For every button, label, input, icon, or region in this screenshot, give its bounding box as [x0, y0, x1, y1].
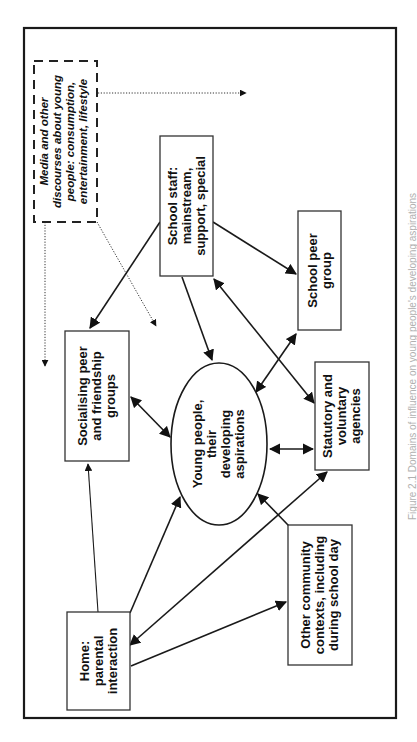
media-label-line-4: entertainment, lifestyle: [77, 78, 89, 204]
arrow-staff-to-young: [182, 277, 212, 360]
arrow-peer-young: [256, 334, 296, 392]
school-staff-label-line-3: support, special: [193, 156, 208, 256]
arrow-home-community: [131, 602, 286, 666]
node-young-people: Young people, their developing aspiratio…: [171, 363, 267, 525]
node-community: Other community contexts, including duri…: [288, 525, 352, 665]
school-peer-label-line-1: School peer: [305, 233, 320, 307]
school-peer-label-line-2: group: [319, 252, 334, 289]
young-people-label-line-4: aspirations: [232, 409, 247, 478]
media-label-line-3: people: consumption,: [64, 82, 76, 202]
node-socialising: Socialising peer and friendship groups: [65, 331, 129, 461]
figure-caption: Figure 2.1 Domains of influence on young…: [407, 193, 417, 520]
statutory-label-line-1: Statutory and: [320, 374, 335, 458]
socialising-label-line-3: groups: [103, 374, 118, 418]
community-label-line-1: Other community: [298, 540, 313, 648]
media-label-line-2: discourses about young: [51, 75, 63, 208]
arrow-socialising-young: [131, 397, 170, 437]
home-label-line-2: parental: [91, 636, 106, 687]
community-label-line-3: during school day: [326, 538, 341, 651]
young-people-label-line-2: their: [204, 430, 219, 458]
community-label-line-2: contexts, including: [312, 536, 327, 655]
arrow-home-young: [130, 497, 180, 613]
school-staff-label-line-1: School staff:: [165, 167, 180, 246]
school-staff-label-line-2: mainstream,: [179, 168, 194, 245]
socialising-label-line-2: and friendship: [89, 351, 104, 441]
arrow-staff-to-peer: [213, 222, 296, 274]
young-people-label-line-1: Young people,: [190, 400, 205, 489]
statutory-label-line-3: agencies: [348, 388, 363, 444]
arrow-staff-to-socialising: [90, 222, 160, 328]
node-school-peer: School peer group: [298, 211, 341, 330]
node-media: Media and other discourses about young p…: [34, 61, 97, 222]
home-label-line-1: Home:: [77, 641, 92, 681]
statutory-label-line-2: voluntary: [334, 386, 349, 445]
node-statutory: Statutory and voluntary agencies: [315, 362, 369, 470]
arrow-home-socialising: [88, 464, 98, 612]
diagram-canvas: Media and other discourses about young p…: [0, 0, 417, 742]
socialising-label-line-1: Socialising peer: [75, 346, 90, 446]
media-label-line-1: Media and other: [38, 97, 50, 186]
home-label-line-3: interaction: [105, 628, 120, 695]
node-school-staff: School staff: mainstream, support, speci…: [160, 136, 213, 276]
node-home: Home: parental interaction: [67, 612, 130, 710]
young-people-label-line-3: developing: [218, 410, 233, 479]
